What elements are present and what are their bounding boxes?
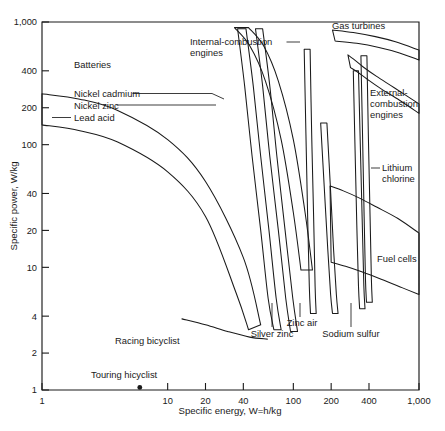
label-ic-engines-line2: engines (190, 47, 223, 58)
y-tick-label-2: 2 (32, 348, 37, 358)
label-lead-acid: Lead acid (74, 112, 115, 123)
label-silver-zinc: Silver zinc (251, 328, 294, 339)
label-lithium-chlorine-line2: chlorine (382, 173, 415, 184)
x-axis-ticks (42, 383, 419, 390)
band-internal-combustion-engines (234, 28, 312, 270)
label-nickel-cadmium: Nickel cadmium (74, 88, 140, 99)
point-touring-bicyclist (137, 385, 142, 390)
x-tick-label-100: 100 (286, 396, 302, 406)
band-lead-acid (42, 94, 261, 330)
band-nickel-zinc (238, 29, 282, 330)
x-tick-label-400: 400 (361, 396, 377, 406)
data-bands (42, 28, 419, 332)
band-zinc-air (321, 123, 338, 313)
label-racing-bicyclist: Racing bicyclist (115, 335, 180, 346)
band-silver-zinc (304, 49, 316, 313)
y-tick-label-10: 10 (27, 263, 37, 273)
label-zinc-air: Zinc air (287, 317, 318, 328)
x-axis-title: Specific energy, W=h/kg (178, 405, 281, 416)
y-axis-title: Specific power, W/kg (8, 161, 19, 250)
y-tick-label-4: 4 (32, 312, 37, 322)
y-tick-label-20: 20 (27, 226, 37, 236)
y-tick-label-1: 1 (32, 385, 37, 395)
ragone-chart-figure: 1241020401002004001,00011020401002004001… (0, 0, 445, 431)
y-tick-label-40: 40 (27, 189, 37, 199)
x-tick-label-1,000: 1,000 (407, 396, 430, 406)
y-tick-label-200: 200 (21, 103, 37, 113)
x-tick-label-1: 1 (39, 396, 44, 406)
y-tick-label-100: 100 (21, 140, 37, 150)
label-external-combustion-line1: External- (370, 87, 408, 98)
label-batteries: Batteries (74, 59, 111, 70)
label-lithium-chlorine-line1: Lithium (382, 162, 412, 173)
data-points (137, 385, 142, 390)
label-external-combustion-line2: combustion (370, 98, 418, 109)
label-touring-bicyclist: Touring hicyclist (91, 369, 158, 380)
label-sodium-sulfur: Sodium sulfur (322, 328, 379, 339)
band-gas-turbines (333, 30, 419, 60)
label-fuel-cells: Fuel cells (377, 253, 417, 264)
y-tick-label-400: 400 (21, 66, 37, 76)
band-fuel-cells (330, 186, 419, 295)
x-tick-label-200: 200 (323, 396, 339, 406)
label-external-combustion-line3: engines (370, 109, 403, 120)
y-tick-label-1,000: 1,000 (14, 17, 37, 27)
label-nickel-zinc: Nickel zinc (74, 100, 119, 111)
label-gas-turbines: Gas turbines (332, 20, 385, 31)
y-axis-ticks (42, 22, 49, 390)
chart-canvas: 1241020401002004001,00011020401002004001… (0, 0, 445, 431)
x-tick-label-10: 10 (162, 396, 172, 406)
leader-lines (52, 42, 380, 327)
label-ic-engines-line1: Internal-combustion (190, 36, 272, 47)
leader-nickel-cadmium (133, 94, 225, 100)
